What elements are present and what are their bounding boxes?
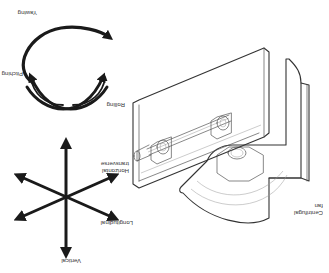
centrifugal-fan-label-line2: fan [315,203,323,209]
yawing-label: Yawing [18,10,37,16]
horizontal-transverse-label-line1: Horizontal [102,168,129,174]
yawing-arrow [23,27,109,83]
axes-star [19,143,114,253]
rotation-arrows [23,27,109,109]
pitching-small-arrow [31,78,63,105]
centrifugal-fan-label-line1: Centrifugal [294,210,323,216]
pitching-label: Pitching [2,71,23,77]
rolling-label: Rolling [107,102,125,108]
horizontal-transverse-label-line2: transverse [100,161,129,167]
longitudinal-axis-label: Longitudinal [101,220,133,226]
centrifugal-fan-drawing [133,48,309,223]
vibration-diagram: Centrifugal fan Vertical Longitudinal Ho… [0,0,329,273]
vertical-axis-label: Vertical [61,258,81,264]
